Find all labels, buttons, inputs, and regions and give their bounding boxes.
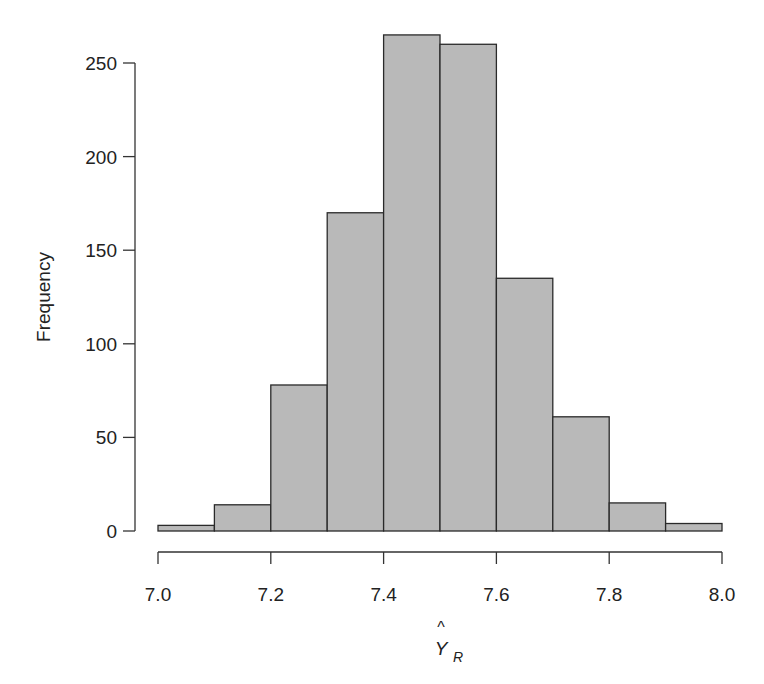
histogram-bar [384,35,440,531]
histogram-bars [158,35,722,531]
histogram-bar [609,503,665,531]
histogram-chart: 050100150200250 7.07.27.47.67.88.0 Frequ… [0,0,764,684]
x-axis: 7.07.27.47.67.88.0 [145,552,735,605]
y-tick-label: 200 [85,147,117,168]
x-axis-title-subscript: R [453,649,463,665]
x-tick-label: 7.0 [145,584,171,605]
histogram-bar [553,417,609,531]
x-tick-label: 7.6 [483,584,509,605]
x-tick-label: 8.0 [709,584,735,605]
y-axis: 050100150200250 [85,53,135,542]
histogram-bar [327,213,383,531]
histogram-bar [440,44,496,531]
x-axis-title-hat: ^ [437,619,445,636]
y-tick-label: 100 [85,334,117,355]
histogram-bar [271,385,327,531]
x-tick-label: 7.8 [596,584,622,605]
y-tick-label: 50 [96,427,117,448]
x-axis-title-main: Y [435,638,449,659]
histogram-bar [214,505,270,531]
histogram-bar [666,524,722,531]
y-axis-title: Frequency [33,252,54,342]
y-tick-label: 250 [85,53,117,74]
histogram-bar [496,278,552,531]
y-tick-label: 150 [85,240,117,261]
y-tick-label: 0 [106,521,117,542]
x-axis-title: ^ Y R [435,619,463,665]
x-tick-label: 7.2 [258,584,284,605]
x-tick-label: 7.4 [370,584,397,605]
histogram-bar [158,525,214,531]
